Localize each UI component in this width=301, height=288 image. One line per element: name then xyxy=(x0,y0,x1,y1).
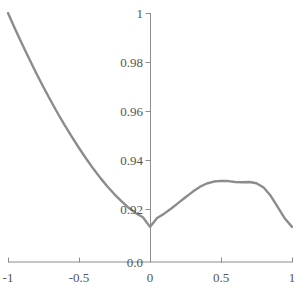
chart-figure: 10.980.960.940.920.0 -1-0.500.51 xyxy=(0,0,301,288)
y-tick-label: 0.96 xyxy=(120,105,143,118)
y-axis-ticks xyxy=(146,14,151,210)
y-tick-label: 0.94 xyxy=(120,154,143,167)
y-tick-label: 0.92 xyxy=(120,203,143,216)
plot-canvas xyxy=(0,0,301,288)
x-tick-label: -1 xyxy=(3,271,14,284)
axes-group xyxy=(8,13,292,262)
x-tick-label: -0.5 xyxy=(69,271,90,284)
x-tick-label: 0.5 xyxy=(213,271,229,284)
y-tick-label: 0.98 xyxy=(120,56,143,69)
y-tick-label: 0.0 xyxy=(127,256,143,269)
x-tick-label: 1 xyxy=(289,271,296,284)
x-tick-label: 0 xyxy=(147,271,154,284)
y-tick-label: 1 xyxy=(137,7,144,20)
